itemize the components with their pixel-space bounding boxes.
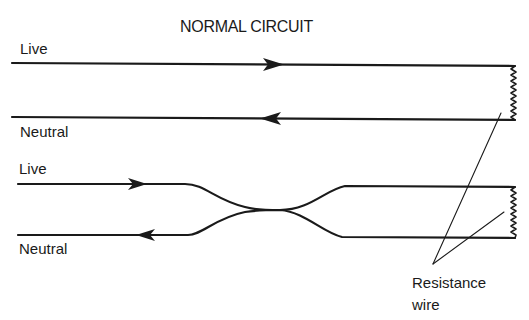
top-live-wire [12, 63, 515, 66]
leader-line-top [433, 113, 501, 264]
bottom-live-wire [18, 184, 515, 210]
bottom-resistance-wire [511, 187, 516, 238]
top-resistance-wire [511, 66, 516, 120]
diagram-canvas: NORMAL CIRCUIT Live Neutral Live Neutral… [0, 0, 529, 320]
bottom-neutral-wire [18, 210, 515, 238]
circuit-drawing [0, 0, 529, 320]
